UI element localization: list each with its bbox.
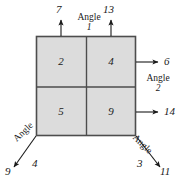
arrow-label-right-lower: 14	[164, 106, 175, 118]
cell-label-top-left: 2	[51, 56, 71, 68]
angle-label-2: Angle 2	[139, 74, 177, 94]
angle-label-1: Angle 1	[70, 13, 108, 33]
arrow-label-top-left: 7	[56, 4, 62, 16]
figure-canvas: 2 4 5 9 7 13 6 14 9 11 Angle 1 Angle 2 A…	[0, 0, 184, 183]
angle-3-number: 3	[137, 158, 143, 170]
cell-label-top-right: 4	[101, 56, 121, 68]
block-body	[37, 37, 136, 136]
cell-label-bottom-left: 5	[51, 106, 71, 118]
angle-4-number: 4	[32, 158, 38, 170]
angle-1-number: 1	[70, 23, 108, 33]
cell-label-bottom-right: 9	[101, 106, 121, 118]
arrow-label-bottom-right: 11	[160, 166, 170, 178]
angle-2-number: 2	[139, 84, 177, 94]
arrow-label-right-upper: 6	[164, 56, 170, 68]
arrow-label-bottom-left: 9	[5, 166, 11, 178]
